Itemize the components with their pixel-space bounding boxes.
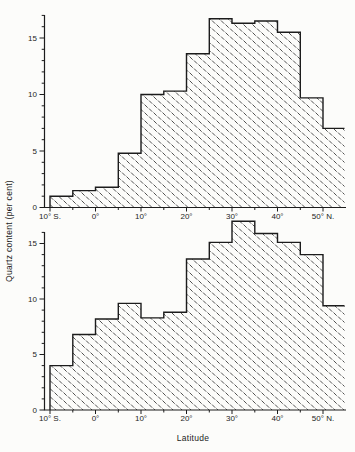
upper-histogram: 05101510° S.0°10°20°30°40°50° N. xyxy=(28,15,346,221)
y-tick-label: 15 xyxy=(28,34,37,43)
x-tick-label: 50° N. xyxy=(312,414,334,423)
x-tick-labels: 10° S.0°10°20°30°40°50° N. xyxy=(39,212,334,221)
y-tick-labels: 051015 xyxy=(28,34,37,213)
x-tick-label: 20° xyxy=(180,414,192,423)
x-tick-label: 30° xyxy=(226,414,238,423)
x-tick-label: 0° xyxy=(92,212,100,221)
x-tick-label: 40° xyxy=(271,414,283,423)
x-axis-title: Latitude xyxy=(177,433,210,443)
y-tick-label: 15 xyxy=(28,239,37,248)
y-axis-title: Quartz content (per cent) xyxy=(4,180,14,282)
y-tick-label: 10 xyxy=(28,295,37,304)
lower-histogram: 05101510° S.0°10°20°30°40°50° N. xyxy=(28,221,346,423)
x-tick-label: 10° S. xyxy=(39,414,61,423)
x-tick-label: 10° xyxy=(135,212,147,221)
y-tick-label: 5 xyxy=(33,350,38,359)
x-tick-label: 0° xyxy=(92,414,100,423)
y-tick-labels: 051015 xyxy=(28,239,37,414)
y-tick-label: 10 xyxy=(28,90,37,99)
x-tick-label: 30° xyxy=(226,212,238,221)
x-tick-label: 20° xyxy=(180,212,192,221)
x-tick-label: 50° N. xyxy=(312,212,334,221)
y-tick-label: 0 xyxy=(33,406,38,415)
x-tick-labels: 10° S.0°10°20°30°40°50° N. xyxy=(39,414,334,423)
histogram-canvas: 05101510° S.0°10°20°30°40°50° N. 0510151… xyxy=(0,0,355,452)
x-tick-label: 10° S. xyxy=(39,212,61,221)
quartz-latitude-figure: 05101510° S.0°10°20°30°40°50° N. 0510151… xyxy=(0,0,355,452)
x-tick-label: 40° xyxy=(271,212,283,221)
y-ticks xyxy=(40,15,45,207)
y-tick-label: 5 xyxy=(33,147,38,156)
x-tick-label: 10° xyxy=(135,414,147,423)
y-tick-label: 0 xyxy=(33,203,38,212)
y-ticks xyxy=(40,232,45,410)
